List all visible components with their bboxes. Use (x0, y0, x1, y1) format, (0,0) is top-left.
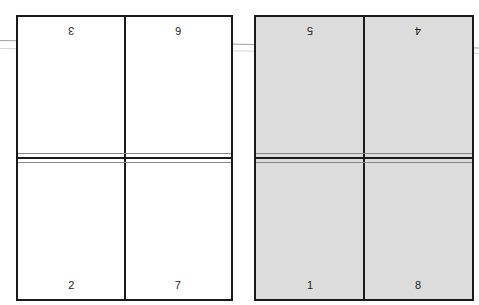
fold-line (18, 153, 231, 154)
page-number: 8 (364, 279, 472, 291)
page-number: 7 (125, 279, 232, 291)
page-number: 1 (256, 279, 364, 291)
page-number: 6 (125, 25, 232, 37)
fold-line (256, 162, 472, 163)
fold-line (256, 157, 472, 159)
page-number: 3 (18, 25, 125, 37)
left-sheet: 3 6 2 7 (16, 15, 233, 301)
fold-line (18, 157, 231, 159)
fold-line (18, 162, 231, 163)
page-number: 5 (256, 25, 364, 37)
page-number: 4 (364, 25, 472, 37)
right-sheet: 5 4 1 8 (254, 15, 474, 301)
fold-line (256, 153, 472, 154)
page-number: 2 (18, 279, 125, 291)
